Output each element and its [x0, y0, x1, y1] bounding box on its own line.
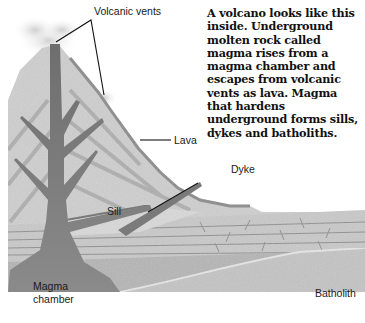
label-batholith: Batholith	[315, 287, 356, 299]
label-dyke: Dyke	[231, 163, 255, 175]
label-magma-chamber-line1: Magma	[33, 280, 68, 292]
label-sill: Sill	[107, 205, 121, 217]
label-volcanic-vents: Volcanic vents	[94, 5, 161, 17]
volcano-diagram: A volcano looks like this inside. Underg…	[0, 0, 365, 323]
label-lava: Lava	[174, 134, 197, 146]
diagram-caption: A volcano looks like this inside. Underg…	[207, 7, 365, 140]
label-magma-chamber-line2: chamber	[33, 293, 74, 305]
